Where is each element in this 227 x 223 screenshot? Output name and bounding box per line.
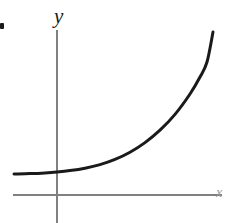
graph-svg [0,0,227,223]
figure-canvas: y x [0,0,227,223]
y-axis-label: y [54,6,63,27]
exponential-curve [14,32,213,174]
x-axis-label: x [216,186,222,200]
